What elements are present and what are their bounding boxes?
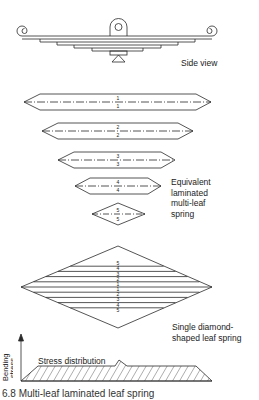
diamond-numbers: 5 4 3 2 1 1 2 3 4 5 [117, 260, 120, 313]
diamond-label-line: shaped leaf spring [172, 333, 241, 344]
equivalent-label-line: multi-leaf [171, 198, 211, 209]
svg-text:stress: stress [8, 358, 13, 378]
figure-caption: 6.8 Multi-leaf laminated leaf spring [2, 388, 154, 399]
svg-text:2: 2 [117, 124, 120, 130]
svg-text:4: 4 [117, 187, 120, 193]
svg-text:3: 3 [117, 153, 120, 159]
equivalent-spring-label: Equivalent laminated multi-leaf spring [171, 177, 211, 219]
svg-text:2: 2 [117, 132, 120, 138]
equivalent-label-line: Equivalent [171, 177, 211, 188]
svg-text:1: 1 [117, 95, 120, 101]
svg-text:1: 1 [117, 103, 120, 109]
diamond-spring-label: Single diamond- shaped leaf spring [172, 322, 241, 343]
side-view-drawing [17, 19, 217, 63]
svg-text:4: 4 [117, 179, 120, 185]
svg-text:5: 5 [117, 207, 120, 213]
y-axis-label: Bending stress [1, 338, 13, 382]
stress-distribution-label: Stress distribution [38, 356, 106, 367]
diamond-label-line: Single diamond- [172, 322, 241, 333]
svg-text:3: 3 [117, 161, 120, 167]
svg-text:5: 5 [117, 216, 120, 222]
side-view-label: Side view [181, 58, 217, 69]
equivalent-label-line: spring [171, 209, 211, 220]
equivalent-label-line: laminated [171, 188, 211, 199]
svg-text:5: 5 [117, 307, 120, 313]
